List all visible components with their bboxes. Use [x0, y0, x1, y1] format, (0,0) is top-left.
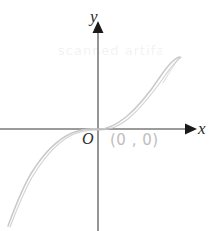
- cubic-curve-plot: [0, 0, 215, 231]
- origin-label: O: [82, 131, 94, 147]
- y-axis-group: [93, 21, 104, 231]
- origin-point-annotation: (0 , 0): [110, 133, 159, 148]
- x-axis-arrowhead: [185, 124, 197, 135]
- x-axis-label: x: [198, 120, 206, 137]
- y-axis-label: y: [90, 8, 98, 25]
- figure-canvas: scanned artifact y x O (0 , 0): [0, 0, 215, 231]
